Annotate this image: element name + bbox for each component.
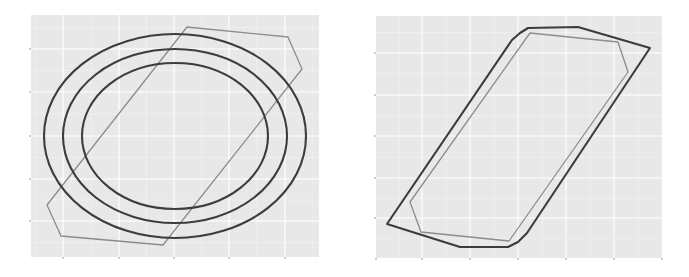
left-plot-panel [29, 15, 319, 259]
panel-background [376, 16, 662, 258]
right-plot-panel [374, 16, 662, 260]
figure [0, 0, 689, 277]
chart-canvas [0, 0, 689, 277]
